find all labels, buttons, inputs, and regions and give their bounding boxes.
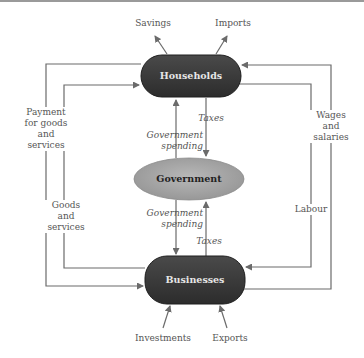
gov-spending-bottom-label: Government spending [133, 208, 203, 230]
wages-line-1: Wages [309, 110, 353, 121]
goods-line-3: services [44, 222, 88, 233]
wages-line-2: and [309, 121, 353, 132]
payment-line-2: for goods [16, 118, 76, 129]
gov-spending-bottom-line-1: Government [133, 208, 203, 219]
goods-line-1: Goods [44, 200, 88, 211]
payment-line-4: services [16, 140, 76, 151]
businesses-label: Businesses [145, 274, 245, 285]
goods-line-2: and [44, 211, 88, 222]
wages-label: Wages and salaries [309, 110, 353, 143]
investments-label: Investments [128, 333, 198, 344]
gov-spending-top-label: Government spending [133, 130, 203, 152]
savings-label: Savings [128, 18, 178, 29]
taxes-top-label: Taxes [196, 113, 226, 124]
government-label: Government [134, 173, 244, 184]
payment-label: Payment for goods and services [16, 107, 76, 151]
taxes-bottom-label: Taxes [194, 236, 224, 247]
labour-label: Labour [292, 204, 330, 215]
payment-line-3: and [16, 129, 76, 140]
gov-spending-top-line-1: Government [133, 130, 203, 141]
gov-spending-top-line-2: spending [133, 141, 203, 152]
households-label: Households [141, 70, 241, 81]
payment-line-1: Payment [16, 107, 76, 118]
gov-spending-bottom-line-2: spending [133, 219, 203, 230]
imports-label: Imports [208, 18, 258, 29]
wages-line-3: salaries [309, 132, 353, 143]
goods-label: Goods and services [44, 200, 88, 233]
exports-label: Exports [205, 333, 255, 344]
